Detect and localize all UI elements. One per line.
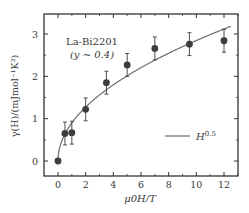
data-point xyxy=(103,79,110,86)
data-point xyxy=(82,106,89,113)
annotation-material: La-Bi2201 xyxy=(66,36,118,47)
y-tick-label: 0 xyxy=(32,156,38,167)
x-tick-label: 2 xyxy=(83,179,89,190)
annotation-doping: (y ~ 0.4) xyxy=(70,49,114,60)
y-axis-label: γ(H)/(mJmol⁻¹K²) xyxy=(9,55,20,137)
x-tick-label: 0 xyxy=(55,179,61,190)
y-tick-label: 1 xyxy=(32,113,38,124)
x-tick-label: 10 xyxy=(190,179,202,190)
chart: 0246810120123 La-Bi2201 (y ~ 0.4) H0.5 μ… xyxy=(0,0,249,213)
x-tick-label: 4 xyxy=(110,179,116,190)
x-tick-label: 12 xyxy=(218,179,230,190)
data-point xyxy=(68,129,75,136)
y-tick-label: 2 xyxy=(32,71,38,82)
x-tick-label: 8 xyxy=(166,179,172,190)
x-axis-label: μ0H/T xyxy=(124,193,157,204)
data-point xyxy=(62,130,69,137)
data-point xyxy=(221,37,228,44)
data-point xyxy=(55,158,62,165)
legend-label: H0.5 xyxy=(195,130,216,142)
axis-ticks: 0246810120123 xyxy=(32,14,238,190)
data-point xyxy=(151,45,158,52)
x-tick-label: 6 xyxy=(138,179,144,190)
y-tick-label: 3 xyxy=(32,29,38,40)
data-point xyxy=(124,62,131,69)
data-point xyxy=(186,41,193,48)
